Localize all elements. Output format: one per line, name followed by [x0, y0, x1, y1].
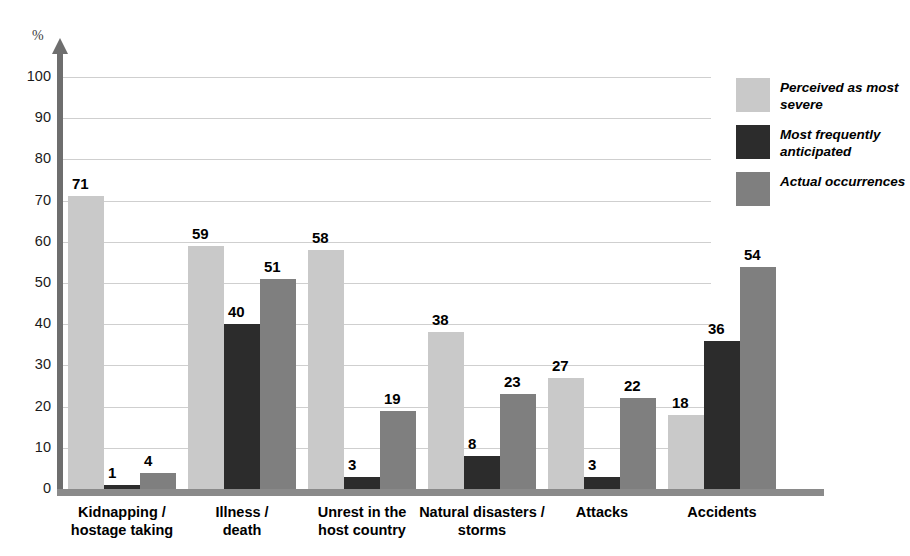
bar-value-label: 23	[504, 373, 521, 390]
bar-value-label: 3	[348, 456, 356, 473]
bar-value-label: 3	[588, 456, 596, 473]
bar-value-label: 71	[72, 175, 89, 192]
bar[interactable]	[224, 324, 260, 489]
category-label-line: Accidents	[642, 503, 802, 521]
plot-area: 7114594051583193882327322183654	[63, 77, 824, 489]
legend-label-line: anticipated	[780, 143, 881, 160]
bar[interactable]	[548, 378, 584, 489]
bar[interactable]	[668, 415, 704, 489]
bar-value-label: 18	[672, 394, 689, 411]
bar-value-label: 4	[144, 452, 152, 469]
bar[interactable]	[380, 411, 416, 489]
bar-value-label: 40	[228, 303, 245, 320]
bar[interactable]	[740, 267, 776, 489]
bar-value-label: 36	[708, 320, 725, 337]
bar-value-label: 54	[744, 246, 761, 263]
bar[interactable]	[584, 477, 620, 489]
y-axis-tick-label: 70	[5, 192, 51, 208]
legend-item[interactable]: Perceived as mostsevere	[736, 78, 910, 113]
category-label: Accidents	[642, 503, 802, 521]
bar-value-label: 27	[552, 357, 569, 374]
bar-value-label: 22	[624, 377, 641, 394]
y-axis-tick-label: 40	[5, 315, 51, 331]
bar-value-label: 51	[264, 258, 281, 275]
legend-label-line: Most frequently	[780, 126, 881, 143]
legend-label: Most frequentlyanticipated	[780, 125, 881, 160]
bar[interactable]	[500, 394, 536, 489]
y-axis-tick-label: 100	[5, 68, 51, 84]
legend-label-line: Perceived as most	[780, 79, 899, 96]
bar[interactable]	[260, 279, 296, 489]
bar[interactable]	[104, 485, 140, 489]
bar[interactable]	[344, 477, 380, 489]
bar-chart: % 1009080706050403020100 711459405158319…	[0, 0, 910, 556]
category-label-line: storms	[402, 521, 562, 539]
bar[interactable]	[464, 456, 500, 489]
legend-label: Actual occurrences	[780, 172, 905, 190]
bar[interactable]	[428, 332, 464, 489]
y-axis-tick-label: 80	[5, 150, 51, 166]
bar[interactable]	[68, 196, 104, 489]
bar-value-label: 1	[108, 464, 116, 481]
y-axis-tick-label: 10	[5, 439, 51, 455]
bar[interactable]	[620, 398, 656, 489]
bar-value-label: 58	[312, 229, 329, 246]
bar-value-label: 59	[192, 225, 209, 242]
bar[interactable]	[140, 473, 176, 489]
legend-swatch	[736, 125, 770, 159]
legend-swatch	[736, 172, 770, 206]
legend-item[interactable]: Actual occurrences	[736, 172, 910, 206]
legend-item[interactable]: Most frequentlyanticipated	[736, 125, 910, 160]
legend-swatch	[736, 78, 770, 112]
y-axis-tick-label: 60	[5, 233, 51, 249]
y-axis-tick-label: 50	[5, 274, 51, 290]
y-axis-tick-label: 20	[5, 398, 51, 414]
y-axis-tick-label: 90	[5, 109, 51, 125]
legend: Perceived as mostsevereMost frequentlyan…	[736, 78, 910, 218]
legend-label-line: Actual occurrences	[780, 173, 905, 190]
legend-label-line: severe	[780, 96, 899, 113]
bar[interactable]	[188, 246, 224, 489]
bar-value-label: 38	[432, 311, 449, 328]
y-axis-title: %	[32, 28, 44, 44]
bar-value-label: 19	[384, 390, 401, 407]
x-axis-baseline	[57, 489, 824, 496]
bar[interactable]	[308, 250, 344, 489]
y-axis-tick-label: 30	[5, 356, 51, 372]
y-axis-tick-label: 0	[5, 480, 51, 496]
bar[interactable]	[704, 341, 740, 489]
bar-value-label: 8	[468, 435, 476, 452]
legend-label: Perceived as mostsevere	[780, 78, 899, 113]
